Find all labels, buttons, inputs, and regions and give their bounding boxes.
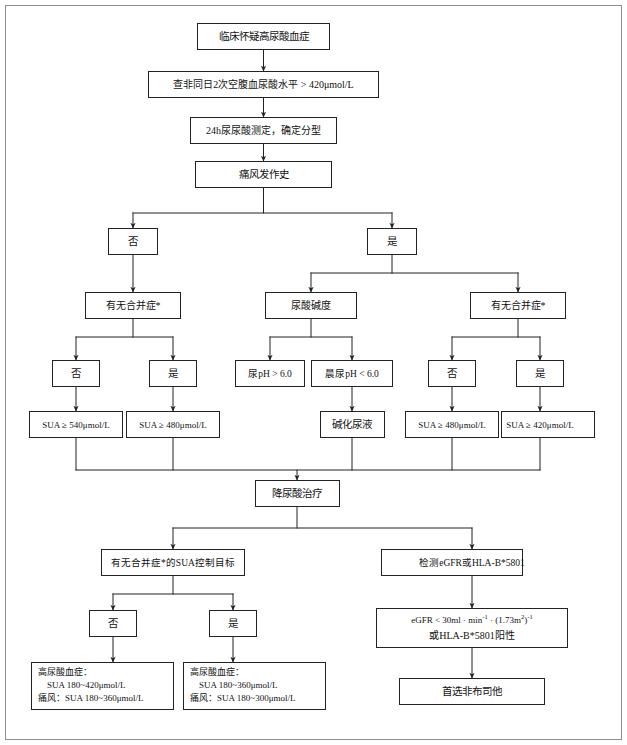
bus-comorbid-right <box>452 319 540 337</box>
node-alkalinize-urine-label: 碱化尿液 <box>332 418 373 430</box>
node-febuxostat-first-line[interactable]: 首选非布司他 <box>400 679 545 705</box>
node-sua-540-label: SUA ≥ 540μmol/L <box>42 420 109 430</box>
node-target-no[interactable]: 否 <box>90 611 137 637</box>
merge-bus-verticals <box>76 438 540 470</box>
node-comorbidity-left-label: 有无合并症* <box>106 299 161 311</box>
node-clinical-suspicion[interactable]: 临床怀疑高尿酸血症 <box>198 24 330 50</box>
node-comorbidity-left-no-label: 否 <box>71 368 82 379</box>
bus-gout-history <box>133 188 392 213</box>
node-test-egfr-hla[interactable]: 检测eGFR或HLA-B*5801 <box>382 550 525 576</box>
node-morning-ph-below-six[interactable]: 晨尿pH < 6.0 <box>312 361 393 387</box>
node-gout-yes-label: 是 <box>387 236 398 247</box>
node-sua-480-left[interactable]: SUA ≥ 480μmol/L <box>127 412 220 438</box>
node-sua-480-right[interactable]: SUA ≥ 480μmol/L <box>406 412 499 438</box>
node-comorbidity-right-no[interactable]: 否 <box>429 361 476 387</box>
node-target-no-label: 否 <box>108 618 119 629</box>
node-comorbidity-left[interactable]: 有无合并症* <box>86 293 181 319</box>
node-sua-420[interactable]: SUA ≥ 420μmol/L <box>502 412 595 438</box>
node-fasting-sua-label: 查非同日2次空腹血尿酸水平 > 420μmol/L <box>173 78 353 90</box>
node-urine-ph-above-six-label: 尿pH > 6.0 <box>248 369 292 379</box>
node-sua-480-left-label: SUA ≥ 480μmol/L <box>139 420 206 430</box>
flowchart-svg: 临床怀疑高尿酸血症 查非同日2次空腹血尿酸水平 > 420μmol/L 24h尿… <box>0 0 627 745</box>
node-sua-480-right-label: SUA ≥ 480μmol/L <box>418 420 485 430</box>
node-egfr-condition[interactable]: eGFR < 30ml · min-1 · (1.73m2)-1 或HLA-B*… <box>377 609 568 648</box>
node-fasting-sua[interactable]: 查非同日2次空腹血尿酸水平 > 420μmol/L <box>149 72 379 98</box>
node-comorbidity-left-yes[interactable]: 是 <box>150 361 197 387</box>
node-gout-history[interactable]: 痛风发作史 <box>196 162 332 188</box>
node-result-no-comorbidity-line3: 痛风：SUA 180~360μmol/L <box>38 692 143 703</box>
bus-gout-yes <box>311 255 518 273</box>
node-gout-no[interactable]: 否 <box>109 229 158 255</box>
node-sua-control-target[interactable]: 有无合并症*的SUA控制目标 <box>102 550 245 576</box>
node-comorbidity-right-yes[interactable]: 是 <box>517 361 564 387</box>
bus-sua-target <box>113 576 233 594</box>
node-urine-alkalinity-label: 尿酸碱度 <box>291 299 331 311</box>
node-comorbidity-right-no-label: 否 <box>447 368 458 379</box>
node-morning-ph-below-six-label: 晨尿pH < 6.0 <box>325 369 379 379</box>
node-result-no-comorbidity-line1: 高尿酸血症： <box>38 666 92 677</box>
node-target-yes-label: 是 <box>228 618 239 629</box>
node-comorbidity-left-no[interactable]: 否 <box>53 361 100 387</box>
node-febuxostat-first-line-label: 首选非布司他 <box>442 685 503 697</box>
node-result-no-comorbidity-line2: SUA 180~420μmol/L <box>47 680 125 690</box>
node-sua-540[interactable]: SUA ≥ 540μmol/L <box>30 412 123 438</box>
node-gout-history-label: 痛风发作史 <box>239 168 290 180</box>
node-egfr-condition-line1: eGFR < 30ml · min-1 · (1.73m2)-1 <box>411 612 532 624</box>
node-comorbidity-left-yes-label: 是 <box>168 368 179 379</box>
node-24h-urine-test-label: 24h尿尿酸测定，确定分型 <box>206 124 321 136</box>
node-test-egfr-hla-label: 检测eGFR或HLA-B*5801 <box>419 557 525 568</box>
node-clinical-suspicion-label: 临床怀疑高尿酸血症 <box>219 30 310 42</box>
node-comorbidity-right-label: 有无合并症* <box>491 299 546 311</box>
node-result-with-comorbidity-line3: 痛风：SUA 180~300μmol/L <box>190 692 295 703</box>
node-egfr-condition-line2: 或HLA-B*5801阳性 <box>429 629 515 641</box>
flowchart-canvas: 临床怀疑高尿酸血症 查非同日2次空腹血尿酸水平 > 420μmol/L 24h尿… <box>0 0 627 745</box>
node-result-no-comorbidity[interactable]: 高尿酸血症： SUA 180~420μmol/L 痛风：SUA 180~360μ… <box>32 663 174 710</box>
node-comorbidity-right-yes-label: 是 <box>535 368 546 379</box>
node-result-with-comorbidity-line1: 高尿酸血症： <box>190 666 244 677</box>
node-alkalinize-urine[interactable]: 碱化尿液 <box>321 412 385 438</box>
bus-urine-alkalinity <box>270 319 352 337</box>
node-urate-lowering-therapy-label: 降尿酸治疗 <box>272 487 323 499</box>
bus-comorbid-left <box>76 319 173 337</box>
node-gout-no-label: 否 <box>128 236 139 247</box>
node-comorbidity-right[interactable]: 有无合并症* <box>471 293 566 319</box>
node-gout-yes[interactable]: 是 <box>368 229 417 255</box>
node-24h-urine-test[interactable]: 24h尿尿酸测定，确定分型 <box>191 118 337 144</box>
node-result-with-comorbidity[interactable]: 高尿酸血症： SUA 180~360μmol/L 痛风：SUA 180~300μ… <box>184 663 326 710</box>
node-result-with-comorbidity-line2: SUA 180~360μmol/L <box>199 680 277 690</box>
node-sua-420-label: SUA ≥ 420μmol/L <box>506 420 573 430</box>
node-urine-alkalinity[interactable]: 尿酸碱度 <box>266 293 357 319</box>
bus-urate-lowering <box>173 507 472 528</box>
node-target-yes[interactable]: 是 <box>210 611 257 637</box>
node-sua-control-target-label: 有无合并症*的SUA控制目标 <box>111 557 235 568</box>
node-urine-ph-above-six[interactable]: 尿pH > 6.0 <box>236 361 305 387</box>
node-urate-lowering-therapy[interactable]: 降尿酸治疗 <box>256 481 340 507</box>
